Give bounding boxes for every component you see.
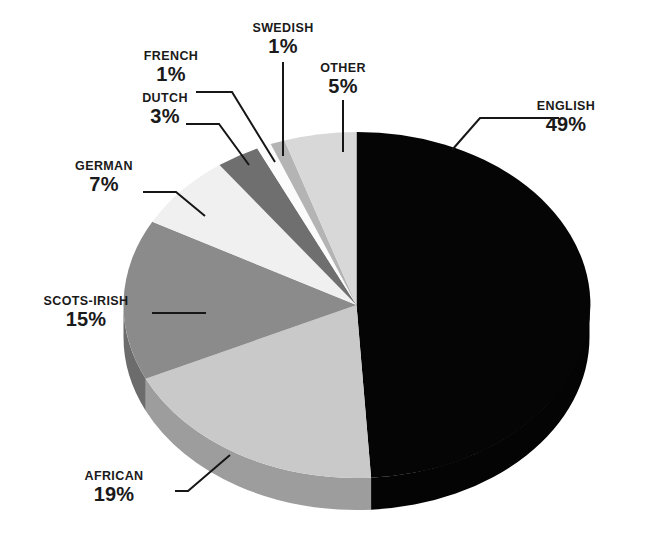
slice-label-german-name: GERMAN	[75, 160, 133, 173]
pie-top-face	[124, 132, 591, 478]
slice-label-english-value: 49%	[537, 114, 595, 135]
slice-label-other: OTHER 5%	[320, 62, 366, 97]
pie-chart-figure: ENGLISH 49% OTHER 5% SWEDISH 1% FRENCH 1…	[0, 0, 658, 546]
slice-label-other-name: OTHER	[320, 62, 366, 75]
slice-label-english-name: ENGLISH	[537, 100, 595, 113]
slice-label-african: AFRICAN 19%	[84, 470, 143, 505]
slice-label-french: FRENCH 1%	[144, 50, 198, 85]
slice-label-french-value: 1%	[144, 64, 198, 85]
slice-label-dutch-name: DUTCH	[142, 92, 188, 105]
slice-label-dutch: DUTCH 3%	[142, 92, 188, 127]
slice-label-english: ENGLISH 49%	[537, 100, 595, 135]
slice-label-scots-irish-name: SCOTS-IRISH	[44, 295, 129, 308]
slice-label-swedish-name: SWEDISH	[252, 22, 313, 35]
slice-label-african-name: AFRICAN	[84, 470, 143, 483]
slice-label-swedish: SWEDISH 1%	[252, 22, 313, 57]
slice-label-other-value: 5%	[320, 76, 366, 97]
slice-label-german-value: 7%	[75, 174, 133, 195]
slice-label-german: GERMAN 7%	[75, 160, 133, 195]
slice-label-swedish-value: 1%	[252, 36, 313, 57]
slice-label-dutch-value: 3%	[142, 106, 188, 127]
slice-label-scots-irish: SCOTS-IRISH 15%	[44, 295, 129, 330]
slice-label-scots-irish-value: 15%	[44, 309, 129, 330]
slice-label-french-name: FRENCH	[144, 50, 198, 63]
slice-label-african-value: 19%	[84, 484, 143, 505]
